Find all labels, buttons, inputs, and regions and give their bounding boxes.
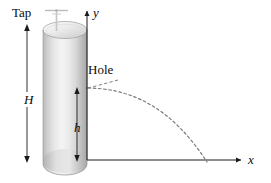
H-arrowhead-bottom (24, 156, 30, 163)
tap-label: Tap (12, 6, 31, 19)
total-height-label: H (22, 92, 35, 107)
coordinate-axes (87, 11, 241, 160)
hole-label: Hole (88, 63, 113, 76)
x-axis-label: x (248, 153, 254, 166)
hole-leader-line (88, 80, 119, 88)
water-jet-trajectory (88, 88, 207, 162)
hole-height-label: h (72, 120, 83, 135)
H-arrowhead-top (24, 24, 30, 31)
physics-diagram-fluid-efflux: Tap Hole H h y x (0, 0, 271, 183)
y-axis-label: y (93, 6, 99, 19)
tap-knob-icon (55, 9, 58, 12)
tank-bottom-cap (43, 149, 87, 173)
diagram-canvas (0, 0, 271, 183)
water-tank (43, 22, 87, 176)
